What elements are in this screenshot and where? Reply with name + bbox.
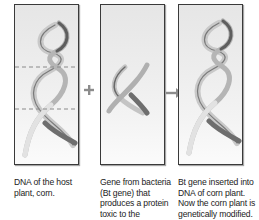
modified-dna-caption: Bt gene inserted into DNA of corn plant.…	[178, 177, 259, 219]
dna-helix-icon	[179, 5, 242, 164]
host-dna-caption: DNA of the host plant, corn.	[14, 177, 94, 198]
dna-helix-icon	[15, 5, 78, 164]
bt-gene-panel	[100, 4, 165, 165]
host-dna-panel	[14, 4, 79, 165]
plus-icon	[84, 85, 94, 95]
modified-dna-panel	[178, 4, 243, 165]
dna-fragment-icon	[101, 5, 164, 164]
bt-gene-caption: Gene from bacteria (Bt gene) that produc…	[100, 177, 180, 219]
